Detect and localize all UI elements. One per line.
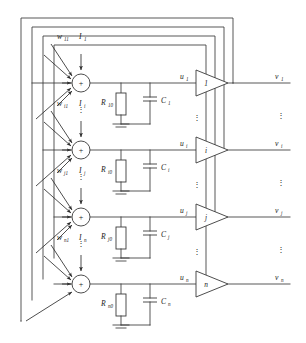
weight-arrow-2-b	[44, 122, 71, 146]
amplifier-label-4: n	[204, 280, 208, 289]
ellipsis-amp-3: ⋮	[193, 247, 201, 256]
amplifier-2	[196, 137, 228, 163]
resistor-sub-2: i0	[108, 169, 112, 175]
resistor-label-2: R	[100, 165, 106, 174]
amplifier-3	[196, 204, 228, 230]
amplifier-label-3: j	[204, 213, 207, 222]
ellipsis-output-3: ⋮	[277, 245, 285, 254]
potential-label-2: u	[180, 139, 184, 148]
potential-sub-2: i	[186, 143, 188, 149]
current-label-1: I	[78, 32, 82, 41]
weight-sub-1: 11	[64, 36, 69, 42]
feedback-drop-lines	[206, 83, 233, 284]
capacitor-sub-1: 1	[168, 100, 171, 106]
weight-arrow-4-b	[44, 256, 71, 280]
resistor-label-4: R	[100, 299, 106, 308]
resistor-1	[116, 93, 126, 115]
left-distribution-rails	[21, 83, 72, 321]
weight-label-1: w	[57, 32, 63, 41]
capacitor-sub-3: j	[167, 234, 170, 240]
ellipsis-output-1: ⋮	[277, 111, 285, 120]
output-sub-4: n	[281, 277, 284, 283]
resistor-4	[116, 294, 126, 316]
output-sub-2: i	[281, 143, 283, 149]
ellipsis-node-1: ⋮	[77, 105, 85, 114]
ellipsis-amp-2: ⋮	[193, 180, 201, 189]
output-label-2: v	[275, 139, 279, 148]
current-sub-1: 1	[84, 36, 87, 42]
resistor-sub-4: n0	[108, 303, 114, 309]
output-label-3: v	[275, 206, 279, 215]
potential-label-4: u	[180, 273, 184, 282]
potential-sub-1: 1	[186, 76, 189, 82]
capacitor-sub-4: n	[168, 301, 171, 307]
row-group-1: + 1 w 11	[36, 32, 290, 127]
output-label-4: v	[275, 273, 279, 282]
weight-arrow-4-a	[51, 245, 72, 277]
ellipsis-node-3: ⋮	[77, 239, 85, 248]
weight-sub-2: i1	[64, 103, 68, 109]
capacitor-label-2: C	[161, 163, 167, 172]
resistor-label-3: R	[100, 232, 106, 241]
circuit-svg: + 1 w 11	[0, 0, 306, 343]
capacitor-label-4: C	[161, 297, 167, 306]
row-group-2: + i w i1 I i R i0 C	[36, 99, 290, 194]
output-label-1: v	[275, 72, 279, 81]
capacitor-label-3: C	[161, 230, 167, 239]
node-plus-1: +	[79, 79, 84, 88]
ellipsis-group: ⋮ ⋮ ⋮ ⋮ ⋮ ⋮ ⋮ ⋮ ⋮	[77, 105, 285, 256]
node-plus-4: +	[79, 280, 84, 289]
resistor-3	[116, 227, 126, 249]
amplifier-1	[196, 70, 228, 96]
potential-sub-4: n	[186, 277, 189, 283]
row-group-4: + n w n1 I n R n0 C n	[26, 233, 290, 328]
ellipsis-amp-1: ⋮	[193, 113, 201, 122]
potential-sub-3: j	[185, 210, 188, 216]
capacitor-label-1: C	[161, 96, 167, 105]
weight-sub-4: n1	[64, 237, 69, 243]
amplifier-4	[196, 271, 228, 297]
row-group-3: + j w j1 I j R j0 C	[36, 166, 290, 261]
amplifier-label-1: 1	[204, 79, 208, 88]
ellipsis-node-2: ⋮	[77, 172, 85, 181]
resistor-sub-1: 10	[108, 102, 114, 108]
weight-arrow-4-c	[26, 292, 72, 321]
weight-arrow-3-b	[44, 189, 71, 213]
potential-label-3: u	[180, 206, 184, 215]
output-sub-1: 1	[281, 76, 284, 82]
ellipsis-output-2: ⋮	[277, 178, 285, 187]
resistor-sub-3: j0	[107, 236, 112, 242]
amplifier-label-2: i	[205, 146, 207, 155]
node-plus-3: +	[79, 213, 84, 222]
weight-sub-3: j1	[63, 170, 68, 176]
output-sub-3: j	[280, 210, 283, 216]
circuit-diagram: + 1 w 11	[0, 0, 306, 343]
resistor-label-1: R	[100, 98, 106, 107]
node-plus-2: +	[79, 146, 84, 155]
resistor-2	[116, 160, 126, 182]
weight-arrow-1-b	[44, 55, 71, 79]
potential-label-1: u	[180, 72, 184, 81]
capacitor-sub-2: i	[168, 167, 170, 173]
